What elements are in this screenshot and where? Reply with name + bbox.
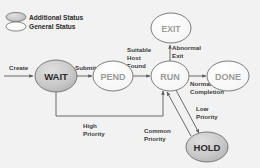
edge-label-suitable-host-found-line2: Host — [127, 54, 141, 61]
node-pend[interactable]: PEND — [93, 61, 133, 91]
node-done[interactable]: DONE — [207, 61, 249, 91]
edge-label-low-priority-line2: Priority — [196, 113, 218, 120]
legend-item-general-label: General Status — [29, 23, 76, 30]
edge-label-common-priority-line2: Priority — [144, 135, 166, 142]
plain-ellipse-icon — [6, 22, 26, 31]
node-wait-label: WAIT — [44, 71, 68, 82]
node-hold-label: HOLD — [194, 142, 221, 153]
shaded-ellipse-icon — [6, 12, 26, 21]
legend-item-additional-label: Additional Status — [29, 14, 84, 21]
node-run[interactable]: RUN — [151, 61, 189, 91]
edge-label-common-priority-line1: Common — [144, 127, 171, 134]
edge-label-suitable-host-found-line1: Suitable — [127, 46, 152, 53]
edge-high-priority — [56, 91, 163, 116]
node-run-label: RUN — [160, 72, 180, 82]
edge-label-high-priority-line2: Priority — [83, 130, 105, 137]
edge-labels-group: Create Submit Suitable Host Found Abnorm… — [9, 44, 224, 142]
edge-label-submit: Submit — [75, 64, 96, 71]
edge-label-create: Create — [9, 64, 29, 71]
node-done-label: DONE — [215, 72, 241, 82]
node-exit[interactable]: EXIT — [151, 13, 191, 43]
legend: Additional Status General Status — [6, 12, 84, 31]
edge-label-abnormal-exit-line1: Abnormal — [172, 44, 201, 51]
state-diagram-canvas: Additional Status General Status — [0, 0, 260, 168]
edge-label-high-priority-line1: High — [83, 122, 97, 129]
node-pend-label: PEND — [100, 72, 126, 82]
node-wait[interactable]: WAIT — [35, 60, 77, 92]
edge-label-low-priority-line1: Low — [196, 105, 209, 112]
node-hold[interactable]: HOLD — [186, 132, 228, 162]
node-exit-label: EXIT — [162, 24, 182, 34]
edge-label-abnormal-exit-line2: Exit — [172, 52, 183, 59]
